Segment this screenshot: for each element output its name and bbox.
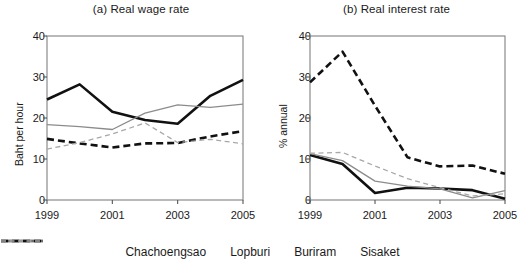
- chart-b-plot: [262, 0, 525, 232]
- x-tick-label: 2003: [155, 209, 201, 221]
- thin-gray-dashed-line: [0, 236, 44, 246]
- x-tick-label: 1999: [287, 209, 333, 221]
- chart-legend: ChachoengsaoLopburiBuriramSisaket: [0, 236, 525, 268]
- x-tick-label: 2005: [482, 209, 525, 221]
- legend-label: Buriram: [294, 245, 336, 259]
- legend-label: Lopburi: [230, 245, 270, 259]
- figure-container: (a) Real wage rate Baht per hour 0102030…: [0, 0, 525, 268]
- series-line-lopburi: [47, 104, 243, 129]
- x-tick-label: 1999: [24, 209, 70, 221]
- legend-label: Chachoengsao: [125, 245, 206, 259]
- chart-panel-a: (a) Real wage rate Baht per hour 0102030…: [0, 0, 262, 232]
- plot-frame: [47, 36, 243, 200]
- x-tick-label: 2003: [417, 209, 463, 221]
- legend-label: Sisaket: [360, 245, 399, 259]
- series-line-buriram: [47, 131, 243, 147]
- series-line-chachoengsao: [310, 155, 505, 199]
- series-line-chachoengsao: [47, 80, 243, 124]
- legend-item-sisaket[interactable]: Sisaket: [360, 245, 399, 259]
- x-tick-label: 2001: [89, 209, 135, 221]
- plot-frame: [310, 36, 505, 200]
- x-tick-label: 2001: [352, 209, 398, 221]
- legend-item-chachoengsao[interactable]: Chachoengsao: [125, 245, 206, 259]
- x-tick-label: 2005: [220, 209, 266, 221]
- series-line-buriram: [310, 52, 505, 174]
- legend-item-buriram[interactable]: Buriram: [294, 245, 336, 259]
- series-line-sisaket: [310, 152, 505, 195]
- legend-item-lopburi[interactable]: Lopburi: [230, 245, 270, 259]
- chart-a-plot: [0, 0, 262, 232]
